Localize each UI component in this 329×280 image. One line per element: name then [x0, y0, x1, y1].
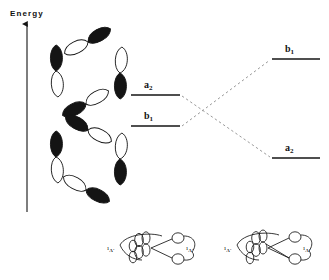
p-lobe-dark: [50, 45, 63, 71]
lobe: [289, 232, 301, 242]
arc: [184, 252, 194, 260]
level-label-left-lower: b1: [144, 111, 153, 123]
p-lobe-dark: [50, 131, 63, 157]
p-lobe-light: [61, 172, 90, 195]
state-label-text: A': [305, 248, 310, 253]
p-lobe-light: [62, 36, 91, 59]
level-label-right-upper: b1: [285, 44, 294, 56]
bond: [266, 244, 289, 258]
arc: [120, 234, 162, 245]
level-label-left-upper-sub: 2: [149, 84, 153, 92]
orbital-correlation-figure: Energy a2 b1 b1 a2 1A' 1A' 1A' 1A': [0, 0, 329, 280]
correlation-line-b1: [182, 60, 270, 126]
p-lobe-light: [51, 157, 64, 183]
correlation-lines: [182, 60, 270, 157]
level-label-right-lower-sub: 2: [290, 147, 294, 155]
bond: [268, 238, 289, 248]
p-lobe-light: [115, 133, 128, 159]
diagram-canvas: [0, 0, 329, 280]
bottom-structure-left: [120, 232, 195, 264]
state-label-text: A': [109, 248, 114, 253]
level-label-left-upper: a2: [144, 80, 153, 92]
p-lobe-dark: [114, 73, 127, 99]
state-label-right-structure-right: 1A': [303, 247, 311, 253]
level-label-right-upper-sub: 1: [291, 48, 295, 56]
state-label-right-structure-left: 1A': [224, 247, 232, 253]
correlation-line-a2: [182, 96, 270, 157]
lobe: [246, 241, 254, 253]
lobe: [289, 254, 301, 264]
level-label-right-lower: a2: [285, 143, 294, 155]
bottom-structure-right: [237, 230, 312, 264]
lobe: [172, 254, 184, 264]
p-lobe-dark: [85, 24, 114, 47]
lobe: [129, 240, 137, 252]
orbital-ring-upper: [50, 24, 128, 121]
p-lobe-dark: [84, 184, 113, 207]
energy-axis-label: Energy: [10, 10, 44, 18]
p-lobe-dark: [114, 159, 127, 185]
bond: [151, 248, 172, 258]
orbital-ring-lower: [50, 112, 128, 207]
level-label-left-lower-sub: 1: [150, 115, 154, 123]
p-lobe-light: [86, 124, 115, 147]
state-label-left-structure-right: 1A': [186, 247, 194, 253]
state-label-left-structure-left: 1A': [107, 247, 115, 253]
p-lobe-light: [51, 71, 64, 97]
p-lobe-light: [115, 47, 128, 73]
lobe: [172, 233, 184, 243]
p-lobe-light: [83, 86, 112, 109]
state-label-text: A': [226, 248, 231, 253]
bond: [151, 239, 172, 248]
state-label-text: A': [188, 248, 193, 253]
